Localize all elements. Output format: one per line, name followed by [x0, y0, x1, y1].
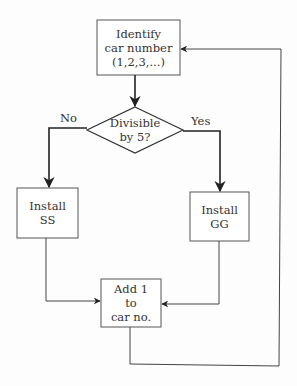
- add-one-node: Add 1 to car no.: [101, 279, 161, 327]
- edge-label-no: No: [60, 111, 77, 125]
- decision-node: Divisible by 5?: [95, 110, 175, 150]
- add-one-text: Add 1 to car no.: [111, 282, 151, 324]
- edge-yes: [183, 131, 220, 191]
- install-gg-node: Install GG: [190, 192, 249, 241]
- identify-text: Identify car number (1,2,3,...): [105, 27, 173, 69]
- edge-gg-add: [162, 241, 219, 304]
- install-gg-text: Install GG: [201, 203, 238, 231]
- decision-text: Divisible by 5?: [110, 116, 161, 144]
- edge-no: [49, 128, 87, 187]
- install-ss-node: Install SS: [17, 188, 78, 238]
- install-ss-text: Install SS: [29, 199, 66, 227]
- edge-ss-add: [46, 238, 100, 301]
- identify-node: Identify car number (1,2,3,...): [97, 20, 180, 75]
- edge-label-yes: Yes: [191, 114, 210, 128]
- flowchart-canvas: Identify car number (1,2,3,...) Divisibl…: [0, 0, 297, 386]
